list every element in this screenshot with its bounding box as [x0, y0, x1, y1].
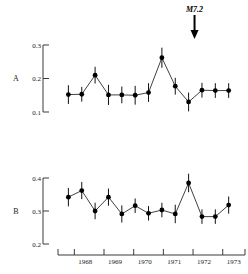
panel-B-ytick-label: 0.2 [32, 241, 41, 249]
panel-B-data-point [133, 203, 138, 208]
x-axis: 196819691970197119721973 [58, 249, 245, 266]
x-axis-tick-label: 1972 [197, 258, 212, 266]
panel-A-data-point [66, 92, 71, 97]
panel-A-data-point [186, 100, 191, 105]
panel-A-data-point [173, 84, 178, 89]
panel-A-data-point [79, 92, 84, 97]
panel-A-data-point [93, 73, 98, 78]
earthquake-annotation-label: M7.2 [185, 5, 203, 14]
earthquake-annotation: M7.2 [185, 5, 203, 39]
x-axis-tick-label: 1968 [78, 258, 93, 266]
panel-A-data-point [200, 88, 205, 93]
panel-B-data-point [200, 214, 205, 219]
panel-A: 0.10.20.3A [13, 42, 231, 117]
panel-B-label: B [13, 207, 18, 216]
figure-container: 0.10.20.3A0.20.30.4B19681969197019711972… [0, 0, 248, 274]
panel-A-data-point [159, 55, 164, 60]
panel-B-data-point [173, 212, 178, 217]
panel-B-data-point [146, 211, 151, 216]
panel-A-ytick-label: 0.1 [32, 109, 41, 117]
down-arrow-icon [191, 30, 199, 39]
panel-B-data-point [66, 195, 71, 200]
time-series-figure: 0.10.20.3A0.20.30.4B19681969197019711972… [0, 0, 248, 274]
panel-B-ytick-label: 0.4 [32, 175, 41, 183]
panel-B-ytick-label: 0.3 [32, 208, 41, 216]
panel-B-data-point [226, 203, 231, 208]
panel-A-data-point [146, 90, 151, 95]
panel-A-data-point [213, 88, 218, 93]
x-axis-tick-label: 1971 [167, 258, 182, 266]
panel-B-data-point [119, 212, 124, 217]
panel-B-data-point [93, 209, 98, 214]
panel-B-data-point [79, 188, 84, 193]
panel-B-data-point [186, 181, 191, 186]
panel-A-data-point [226, 88, 231, 93]
x-axis-tick-label: 1973 [227, 258, 242, 266]
panel-B-data-point [159, 208, 164, 213]
panel-A-data-point [119, 93, 124, 98]
panel-A-data-point [106, 93, 111, 98]
panel-A-ytick-label: 0.3 [32, 42, 41, 50]
panel-B: 0.20.30.4B [13, 174, 231, 249]
panel-A-label: A [13, 74, 19, 83]
x-axis-tick-label: 1970 [138, 258, 153, 266]
x-axis-tick-label: 1969 [108, 258, 123, 266]
panel-A-ytick-label: 0.2 [32, 75, 41, 83]
panel-B-data-point [106, 195, 111, 200]
panel-B-data-point [213, 214, 218, 219]
panel-A-data-point [133, 93, 138, 98]
